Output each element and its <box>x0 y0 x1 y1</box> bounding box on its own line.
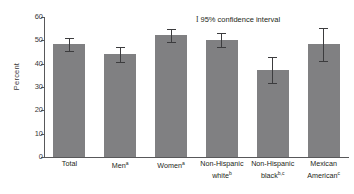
x-category-label-line: Americanc <box>295 169 352 181</box>
x-category-label: MexicanAmericanc <box>295 159 352 180</box>
error-bar <box>272 57 273 83</box>
x-category-label: Mena <box>92 159 149 171</box>
x-category-label: Non-Hispanicwhiteb <box>194 159 251 180</box>
x-category-label-line: Total <box>41 159 98 169</box>
bar <box>53 44 85 157</box>
error-bar-cap-lower <box>65 51 74 52</box>
error-bar <box>221 33 222 47</box>
error-bar-cap-upper <box>319 28 328 29</box>
y-tick-label: 40 <box>19 59 43 68</box>
bar <box>155 35 187 158</box>
bar-group <box>104 17 136 157</box>
bar-group <box>206 17 238 157</box>
bar-series <box>44 17 349 157</box>
error-bar-cap-upper <box>65 38 74 39</box>
error-bar-cap-lower <box>268 83 277 84</box>
x-category-label-line: Womena <box>143 159 200 171</box>
error-bar-cap-lower <box>217 47 226 48</box>
bar <box>206 40 238 157</box>
x-category-label-superscript: b,c <box>278 170 285 176</box>
bar-chart: Percent I95% confidence interval 0102030… <box>0 0 354 194</box>
y-tick-label: 10 <box>19 129 43 138</box>
error-bar <box>323 28 324 61</box>
y-axis-label: Percent <box>12 47 21 107</box>
x-category-label-superscript: b <box>229 170 232 176</box>
bar <box>104 54 136 157</box>
error-bar-cap-lower <box>319 61 328 62</box>
error-bar <box>69 38 70 51</box>
bar-group <box>257 17 289 157</box>
x-category-label: Non-Hispanicblackb,c <box>244 159 301 180</box>
x-axis-category-labels: TotalMenaWomenaNon-HispanicwhitebNon-His… <box>44 159 349 193</box>
error-bar <box>120 47 121 62</box>
y-tick-label: 50 <box>19 35 43 44</box>
y-tick-label: 0 <box>19 152 43 161</box>
plot-area: 0102030405060 <box>44 17 349 157</box>
x-category-label-line: Non-Hispanic <box>194 159 251 169</box>
y-tick-label: 60 <box>19 12 43 21</box>
error-bar-cap-upper <box>217 33 226 34</box>
x-category-label-line: Non-Hispanic <box>244 159 301 169</box>
bar-group <box>155 17 187 157</box>
error-bar-cap-lower <box>116 62 125 63</box>
x-category-label-superscript: a <box>126 160 129 166</box>
y-tick-label: 30 <box>19 82 43 91</box>
error-bar-cap-upper <box>116 47 125 48</box>
bar-group <box>53 17 85 157</box>
error-bar <box>171 29 172 42</box>
x-category-label-line: whiteb <box>194 169 251 181</box>
x-category-label: Total <box>41 159 98 169</box>
x-category-label-line: blackb,c <box>244 169 301 181</box>
x-category-label-line: Mexican <box>295 159 352 169</box>
x-category-label-line: Mena <box>92 159 149 171</box>
x-axis-line <box>44 157 349 158</box>
y-tick-label: 20 <box>19 105 43 114</box>
bar-group <box>308 17 340 157</box>
error-bar-cap-upper <box>268 57 277 58</box>
error-bar-cap-lower <box>167 42 176 43</box>
error-bar-cap-upper <box>167 29 176 30</box>
x-category-label-superscript: a <box>182 160 185 166</box>
x-category-label-superscript: c <box>338 170 341 176</box>
x-category-label: Womena <box>143 159 200 171</box>
